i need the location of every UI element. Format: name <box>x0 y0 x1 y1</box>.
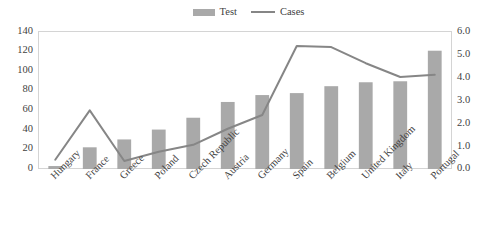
left-axis-tick: 100 <box>17 65 33 76</box>
chart-legend: Test Cases <box>0 3 497 21</box>
left-axis-tick: 120 <box>17 45 33 56</box>
chart-container: Test Cases 140 120 100 80 60 40 20 0 6.0… <box>0 0 497 249</box>
right-axis-tick: 3.0 <box>457 95 470 106</box>
left-axis-tick: 40 <box>23 124 34 135</box>
left-axis-tick: 60 <box>23 104 34 115</box>
left-value-axis: 140 120 100 80 60 40 20 0 <box>0 0 33 249</box>
right-axis-tick: 6.0 <box>457 26 470 37</box>
plot-area <box>38 31 452 169</box>
legend-label-cases: Cases <box>280 7 305 18</box>
right-value-axis: 6.0 5.0 4.0 3.0 2.0 1.0 0.0 <box>457 0 497 249</box>
right-axis-tick: 5.0 <box>457 49 470 60</box>
left-axis-tick: 140 <box>17 26 33 37</box>
legend-label-test: Test <box>220 7 237 18</box>
line-swatch-icon <box>251 11 275 13</box>
right-axis-tick: 0.0 <box>457 163 470 174</box>
right-axis-tick: 4.0 <box>457 72 470 83</box>
bar-hungary[interactable] <box>48 166 62 169</box>
bar-austria[interactable] <box>221 102 235 169</box>
line-series-cases <box>55 46 435 161</box>
bar-italy[interactable] <box>393 81 407 169</box>
bar-series-test <box>48 51 441 169</box>
legend-item-cases[interactable]: Cases <box>251 7 305 18</box>
right-axis-tick: 1.0 <box>457 141 470 152</box>
left-axis-tick: 80 <box>23 84 34 95</box>
right-axis-tick: 2.0 <box>457 118 470 129</box>
bar-france[interactable] <box>83 147 97 169</box>
left-axis-tick: 0 <box>28 163 33 174</box>
bar-poland[interactable] <box>152 130 166 169</box>
bar-spain[interactable] <box>290 93 304 169</box>
bar-united-kingdom[interactable] <box>359 82 373 169</box>
bar-swatch-icon <box>193 9 215 16</box>
left-axis-tick: 20 <box>23 143 34 154</box>
bar-belgium[interactable] <box>324 86 338 169</box>
bar-portugal[interactable] <box>428 51 442 169</box>
legend-item-test[interactable]: Test <box>193 7 237 18</box>
